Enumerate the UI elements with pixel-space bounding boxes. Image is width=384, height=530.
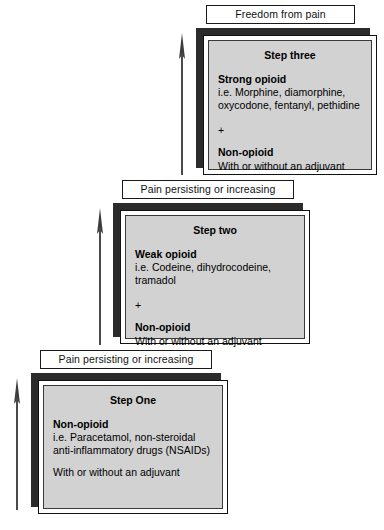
step-two-title: Step two bbox=[135, 225, 295, 237]
step-three-secondary-group: Non-opioid With or without an adjuvant bbox=[218, 146, 362, 172]
caption-step-two: Pain persisting or increasing bbox=[122, 180, 294, 199]
arrow-step-two bbox=[94, 208, 106, 345]
step-two-frame: Step two Weak opioid i.e. Codeine, dihyd… bbox=[120, 210, 310, 344]
caption-step-three: Freedom from pain bbox=[206, 5, 355, 24]
step-three-inner: Step three Strong opioid i.e. Morphine, … bbox=[208, 40, 372, 170]
step-two-primary-desc: i.e. Codeine, dihydrocodeine, tramadol bbox=[135, 261, 295, 287]
step-one-primary-group: Non-opioid i.e. Paracetamol, non-steroid… bbox=[53, 418, 213, 457]
step-three-connector: + bbox=[218, 125, 362, 136]
step-two-secondary-drug: Non-opioid bbox=[135, 321, 295, 334]
step-two-secondary-group: Non-opioid With or without an adjuvant bbox=[135, 321, 295, 347]
arrow-step-three bbox=[176, 33, 188, 175]
step-one-frame: Step One Non-opioid i.e. Paracetamol, no… bbox=[38, 380, 228, 514]
step-two-connector: + bbox=[135, 300, 295, 311]
step-two-inner: Step two Weak opioid i.e. Codeine, dihyd… bbox=[125, 215, 305, 339]
caption-step-three-label: Freedom from pain bbox=[235, 9, 325, 20]
step-card-step-three: Step three Strong opioid i.e. Morphine, … bbox=[196, 28, 370, 168]
step-three-frame: Step three Strong opioid i.e. Morphine, … bbox=[203, 35, 377, 175]
arrow-step-one bbox=[11, 378, 23, 510]
pain-ladder-diagram: Freedom from pain Step three Strong opio… bbox=[0, 0, 384, 530]
step-three-primary-desc: i.e. Morphine, diamorphine, oxycodone, f… bbox=[218, 86, 362, 112]
step-two-primary-drug: Weak opioid bbox=[135, 248, 295, 261]
step-two-secondary-desc: With or without an adjuvant bbox=[135, 335, 295, 348]
caption-step-one-label: Pain persisting or increasing bbox=[59, 354, 194, 365]
step-three-secondary-drug: Non-opioid bbox=[218, 146, 362, 159]
step-three-primary-drug: Strong opioid bbox=[218, 73, 362, 86]
step-one-primary-drug: Non-opioid bbox=[53, 418, 213, 431]
step-three-secondary-desc: With or without an adjuvant bbox=[218, 160, 362, 173]
step-three-primary-group: Strong opioid i.e. Morphine, diamorphine… bbox=[218, 73, 362, 112]
step-card-step-one: Step One Non-opioid i.e. Paracetamol, no… bbox=[31, 373, 221, 507]
step-one-spacer bbox=[53, 457, 213, 466]
caption-step-two-label: Pain persisting or increasing bbox=[141, 184, 276, 195]
step-one-title: Step One bbox=[53, 395, 213, 407]
step-three-title: Step three bbox=[218, 50, 362, 62]
step-one-secondary-desc: With or without an adjuvant bbox=[53, 466, 213, 479]
step-two-primary-group: Weak opioid i.e. Codeine, dihydrocodeine… bbox=[135, 248, 295, 287]
step-one-primary-desc: i.e. Paracetamol, non-steroidal anti-inf… bbox=[53, 431, 213, 457]
step-card-step-two: Step two Weak opioid i.e. Codeine, dihyd… bbox=[113, 203, 303, 337]
caption-step-one: Pain persisting or increasing bbox=[40, 350, 212, 369]
step-one-inner: Step One Non-opioid i.e. Paracetamol, no… bbox=[43, 385, 223, 509]
